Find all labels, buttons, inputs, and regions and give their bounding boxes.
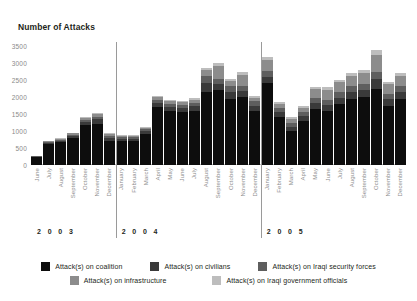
month-label: April <box>152 167 163 213</box>
bar-segment <box>225 92 236 99</box>
attacks-bar-chart: Number of Attacks 3500300025002000150010… <box>0 0 417 301</box>
bar[interactable] <box>80 46 91 165</box>
legend-item[interactable]: Attack(s) on infrastructure <box>70 276 167 285</box>
bar-segment <box>358 97 369 165</box>
month-axis-labels: JuneJulyAugustSeptemberOctoberNovemberDe… <box>31 167 406 213</box>
bar-segment <box>201 76 212 83</box>
legend-item[interactable]: Attack(s) on civilians <box>150 262 230 271</box>
bar[interactable] <box>213 46 224 165</box>
bar[interactable] <box>298 46 309 165</box>
y-axis-tick: 1000 <box>12 128 27 135</box>
legend-swatch-icon <box>70 276 79 285</box>
month-label: September <box>358 167 369 213</box>
month-label: July <box>43 167 54 213</box>
legend-row: Attack(s) on infrastructureAttack(s) on … <box>0 276 417 285</box>
bar[interactable] <box>249 46 260 165</box>
bar[interactable] <box>371 46 382 165</box>
month-label: December <box>395 167 406 213</box>
month-label: June <box>322 167 333 213</box>
bar[interactable] <box>225 46 236 165</box>
y-axis-tick: 500 <box>16 145 27 152</box>
bar-segment <box>358 90 369 97</box>
bar[interactable] <box>140 46 151 165</box>
month-label: October <box>225 167 236 213</box>
y-axis-tick: 3500 <box>12 43 27 50</box>
bar[interactable] <box>177 46 188 165</box>
year-label: 2 0 0 5 <box>267 228 305 235</box>
bar-segment <box>201 83 212 92</box>
month-label: October <box>80 167 91 213</box>
bar-segment <box>67 138 78 165</box>
month-label: October <box>371 167 382 213</box>
bar-segment <box>395 92 406 99</box>
bar-segment <box>261 77 272 84</box>
y-axis-tick: 1500 <box>12 111 27 118</box>
month-label: September <box>67 167 78 213</box>
bar-segment <box>80 125 91 165</box>
legend-label: Attack(s) on infrastructure <box>84 277 167 284</box>
bar[interactable] <box>116 46 127 165</box>
month-label: February <box>128 167 139 213</box>
bar[interactable] <box>237 46 248 165</box>
bar[interactable] <box>274 46 285 165</box>
bar-segment <box>213 66 224 79</box>
bar[interactable] <box>128 46 139 165</box>
legend-swatch-icon <box>150 262 159 271</box>
bar-segment <box>310 109 321 165</box>
year-axis-labels: 2 0 0 32 0 0 42 0 0 5 <box>31 228 406 242</box>
bar-segment <box>92 124 103 165</box>
legend-label: Attack(s) on Iraqi government officials <box>226 277 347 284</box>
legend-label: Attack(s) on coalition <box>55 263 122 270</box>
month-label: May <box>164 167 175 213</box>
bar[interactable] <box>201 46 212 165</box>
bar-segment <box>55 142 66 165</box>
bar-segment <box>322 111 333 165</box>
bar-segment <box>261 60 272 71</box>
bar[interactable] <box>358 46 369 165</box>
bar[interactable] <box>346 46 357 165</box>
bar-segment <box>164 111 175 165</box>
bar[interactable] <box>261 46 272 165</box>
bar-segment <box>237 97 248 165</box>
bar[interactable] <box>322 46 333 165</box>
legend-item[interactable]: Attack(s) on Iraqi government officials <box>212 276 347 285</box>
month-label: June <box>31 167 42 213</box>
month-label: January <box>261 167 272 213</box>
bar[interactable] <box>395 46 406 165</box>
month-label: April <box>298 167 309 213</box>
bar[interactable] <box>31 46 42 165</box>
bar[interactable] <box>92 46 103 165</box>
bar[interactable] <box>67 46 78 165</box>
bar-segment <box>310 89 321 99</box>
month-label: December <box>249 167 260 213</box>
bar[interactable] <box>152 46 163 165</box>
month-label: November <box>237 167 248 213</box>
bar-segment <box>237 75 248 86</box>
bar[interactable] <box>43 46 54 165</box>
month-label: February <box>274 167 285 213</box>
month-label: August <box>201 167 212 213</box>
legend-item[interactable]: Attack(s) on Iraqi security forces <box>258 262 375 271</box>
bar-segment <box>213 90 224 165</box>
bar-segment <box>225 99 236 165</box>
bar[interactable] <box>286 46 297 165</box>
bar[interactable] <box>334 46 345 165</box>
bar-segment <box>395 99 406 165</box>
legend-swatch-icon <box>212 276 221 285</box>
bar-group-container <box>31 46 406 165</box>
bar[interactable] <box>189 46 200 165</box>
bar[interactable] <box>310 46 321 165</box>
y-axis-tick: 2500 <box>12 77 27 84</box>
bar-segment <box>298 121 309 165</box>
bar[interactable] <box>104 46 115 165</box>
legend-item[interactable]: Attack(s) on coalition <box>41 262 122 271</box>
bar[interactable] <box>383 46 394 165</box>
bar[interactable] <box>55 46 66 165</box>
month-label: March <box>140 167 151 213</box>
bar-segment <box>31 157 42 165</box>
month-label: March <box>286 167 297 213</box>
month-label: December <box>104 167 115 213</box>
bar[interactable] <box>164 46 175 165</box>
bar-segment <box>128 141 139 165</box>
plot-area: 3500300025002000150010005000 <box>31 46 406 165</box>
